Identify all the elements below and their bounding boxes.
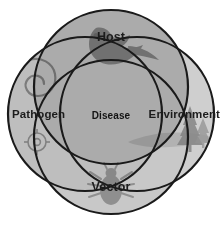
venn-diagram-container: Host Pathogen Environment Vector Disease xyxy=(0,0,222,228)
venn-diagram-graphic xyxy=(0,0,222,228)
